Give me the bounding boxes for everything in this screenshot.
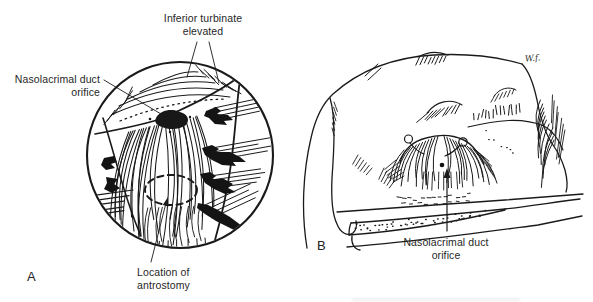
nasolacrimal-duct-label-a-line2: orifice	[8, 86, 100, 99]
nasolacrimal-duct-label-b-line1: Nasolacrimal duct	[386, 236, 506, 249]
panel-b-letter: B	[317, 238, 326, 253]
mucosa-flow-hatching	[110, 116, 214, 254]
inferior-turbinate-label: Inferior turbinate elevated	[143, 12, 263, 38]
nasolacrimal-duct-label-b: Nasolacrimal duct orifice	[386, 236, 506, 262]
panel-a-letter: A	[27, 269, 36, 284]
nasolacrimal-duct-label-a: Nasolacrimal duct orifice	[8, 73, 100, 99]
cropped-caption-remnant	[352, 298, 520, 301]
nasolacrimal-duct-label-a-line1: Nasolacrimal duct	[8, 73, 100, 86]
nasolacrimal-orifice-dot	[440, 163, 445, 168]
antrostomy-dashed-ellipse	[145, 175, 197, 205]
antrostomy-label-line1: Location of	[137, 266, 217, 279]
panel-b-illustration	[304, 53, 583, 250]
antrostomy-arrowhead	[163, 197, 169, 207]
leader-antrostomy	[151, 203, 166, 262]
inferior-turbinate-label-line2: elevated	[143, 25, 263, 38]
artist-signature: W.f.	[525, 52, 541, 64]
antrostomy-label-line2: antrostomy	[137, 279, 217, 292]
inferior-turbinate-label-line1: Inferior turbinate	[143, 12, 263, 25]
leader-nasolacrimal-a	[104, 80, 161, 114]
nasolacrimal-duct-label-b-line2: orifice	[386, 249, 506, 262]
panel-a-illustration	[87, 42, 274, 262]
antrostomy-label: Location of antrostomy	[137, 266, 217, 292]
medical-illustration-figure: Inferior turbinate elevated Nasolacrimal…	[0, 0, 593, 302]
